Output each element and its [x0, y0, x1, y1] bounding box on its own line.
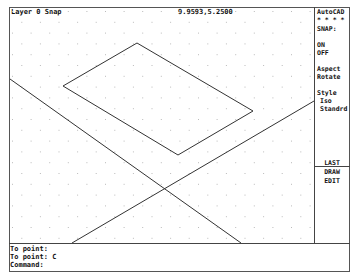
menu-item-off[interactable]: OFF [317, 49, 329, 57]
menu-item-style[interactable]: Style [317, 89, 337, 97]
menu-item-standard[interactable]: Standrd [320, 105, 347, 113]
menu-item-draw[interactable]: DRAW [315, 168, 349, 176]
menu-item-rotate[interactable]: Rotate [317, 73, 340, 81]
drawing-canvas[interactable] [0, 0, 359, 277]
menu-item-edit[interactable]: EDIT [315, 177, 349, 185]
command-input-line[interactable]: Command: [10, 261, 350, 269]
command-history-line: To point: [10, 245, 350, 253]
menu-stars[interactable]: * * * * [317, 16, 344, 24]
command-prompt-area[interactable]: To point: To point: C Command: [9, 243, 350, 272]
menu-item-on[interactable]: ON [317, 41, 325, 49]
drawing-area[interactable] [10, 18, 314, 243]
diagonal-line-2[interactable] [72, 101, 314, 243]
menu-item-aspect[interactable]: Aspect [317, 65, 340, 73]
isometric-rectangle[interactable] [63, 43, 253, 155]
menu-title-autocad[interactable]: AutoCAD [317, 8, 344, 16]
diagonal-line-1[interactable] [10, 79, 241, 243]
screen-menu: AutoCAD * * * * SNAP: ON OFF Aspect Rota… [314, 7, 350, 243]
command-history-line: To point: C [10, 253, 350, 261]
menu-divider [315, 166, 350, 167]
menu-item-iso[interactable]: Iso [320, 97, 332, 105]
snap-grid-dots [12, 11, 311, 239]
menu-item-snap[interactable]: SNAP: [317, 25, 337, 33]
